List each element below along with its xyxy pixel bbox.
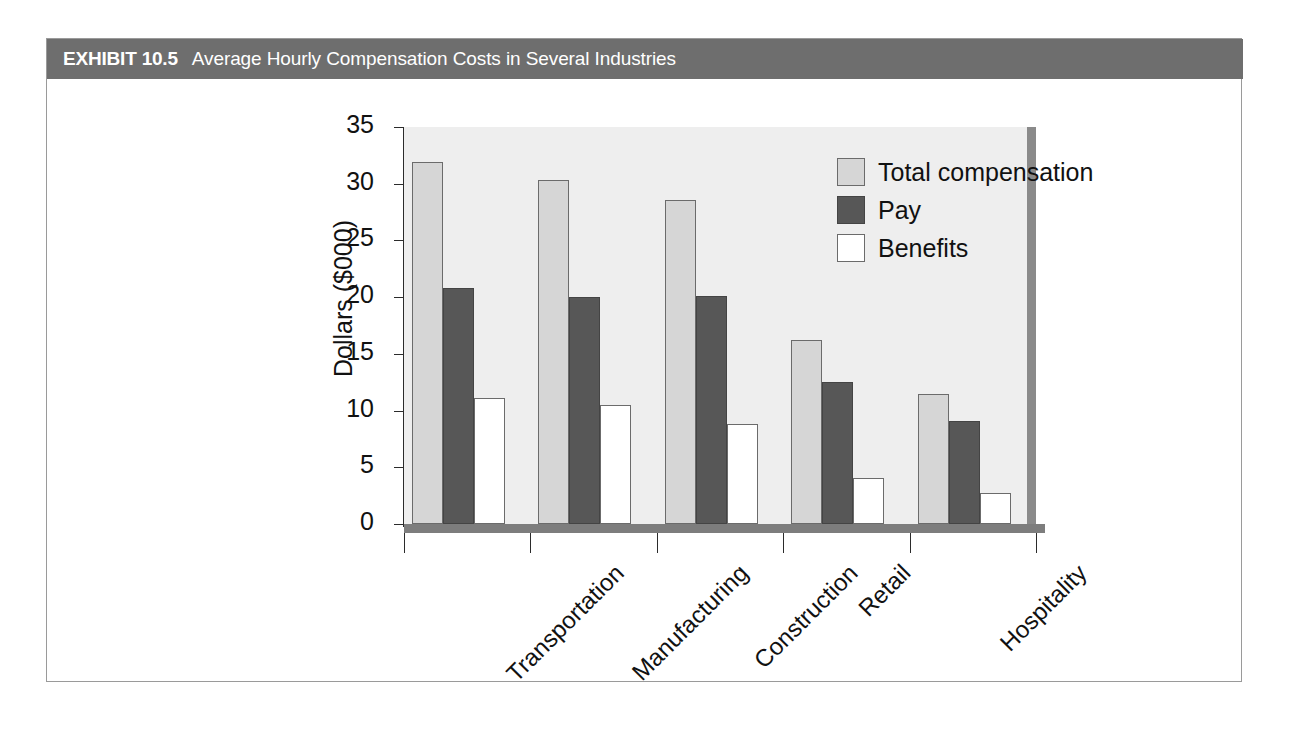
y-tick xyxy=(394,524,404,525)
legend-label: Benefits xyxy=(878,234,968,263)
legend-swatch xyxy=(837,234,865,262)
bar xyxy=(443,288,474,524)
bar xyxy=(949,421,980,524)
bar xyxy=(980,493,1011,524)
legend-label: Total compensation xyxy=(878,158,1093,187)
y-tick-label: 15 xyxy=(314,339,374,364)
x-axis-label: Retail xyxy=(853,559,916,622)
y-tick-label: 20 xyxy=(314,282,374,307)
x-axis-label: Hospitality xyxy=(994,559,1092,657)
legend-swatch xyxy=(837,196,865,224)
bar xyxy=(853,478,884,525)
x-axis-line xyxy=(404,524,1045,533)
x-axis-label: Construction xyxy=(748,559,863,674)
bar xyxy=(665,200,696,524)
x-tick xyxy=(530,533,531,553)
x-tick xyxy=(910,533,911,553)
bar xyxy=(474,398,505,524)
bar xyxy=(727,424,758,524)
bar xyxy=(822,382,853,524)
y-tick xyxy=(394,184,404,185)
bar-group xyxy=(665,127,758,524)
x-axis-label: Manufacturing xyxy=(627,559,754,686)
bar xyxy=(412,162,443,524)
legend-item: Benefits xyxy=(837,231,1093,265)
bar xyxy=(538,180,569,524)
x-tick xyxy=(783,533,784,553)
exhibit-number-label: EXHIBIT 10.5 xyxy=(63,48,178,70)
legend-label: Pay xyxy=(878,196,921,225)
bar xyxy=(600,405,631,524)
y-tick xyxy=(394,411,404,412)
exhibit-title: Average Hourly Compensation Costs in Sev… xyxy=(192,48,676,70)
x-tick xyxy=(404,533,405,553)
y-tick-label: 0 xyxy=(314,509,374,534)
x-tick xyxy=(657,533,658,553)
y-tick xyxy=(394,467,404,468)
chart-area: Dollars ($000) 05101520253035 Transporta… xyxy=(47,79,1243,681)
y-tick xyxy=(394,354,404,355)
y-tick xyxy=(394,297,404,298)
y-tick-label: 35 xyxy=(314,112,374,137)
exhibit-header: EXHIBIT 10.5 Average Hourly Compensation… xyxy=(47,39,1243,79)
bar-group xyxy=(412,127,505,524)
legend-item: Total compensation xyxy=(837,155,1093,189)
legend-item: Pay xyxy=(837,193,1093,227)
bar xyxy=(696,296,727,524)
exhibit-frame: EXHIBIT 10.5 Average Hourly Compensation… xyxy=(46,38,1242,682)
bar xyxy=(918,394,949,524)
x-axis-label: Transportation xyxy=(501,559,630,688)
y-tick-label: 30 xyxy=(314,169,374,194)
y-tick xyxy=(394,240,404,241)
legend-swatch xyxy=(837,158,865,186)
y-tick xyxy=(394,127,404,128)
bar xyxy=(791,340,822,524)
y-tick-label: 5 xyxy=(314,452,374,477)
y-tick-label: 10 xyxy=(314,396,374,421)
exhibit-page: EXHIBIT 10.5 Average Hourly Compensation… xyxy=(0,0,1289,734)
bar xyxy=(569,297,600,524)
x-tick xyxy=(1036,533,1037,553)
bar-group xyxy=(538,127,631,524)
chart-legend: Total compensationPayBenefits xyxy=(837,155,1093,265)
y-tick-label: 25 xyxy=(314,225,374,250)
